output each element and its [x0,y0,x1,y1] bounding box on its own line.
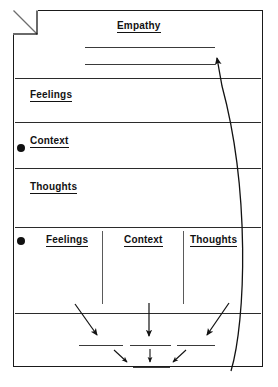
section-divider-4 [15,227,261,228]
section-label-thoughts-top: Thoughts [30,181,77,194]
section-divider-1 [15,78,261,79]
bullet-columns [17,237,25,245]
section-divider-2 [15,122,261,123]
section-divider-3 [15,168,261,169]
column-divider-2 [183,231,184,304]
page-title: Empathy [117,20,161,33]
section-label-feelings-top: Feelings [30,89,72,102]
column-divider-1 [102,231,103,304]
section-label-context: Context [30,135,69,148]
empathy-write-line-1[interactable] [85,47,215,48]
result-line-final[interactable] [133,367,170,368]
column-header-context: Context [124,234,163,247]
bullet-context [17,144,25,152]
column-header-thoughts: Thoughts [190,234,237,247]
result-line-2[interactable] [130,345,171,346]
result-line-1[interactable] [79,345,123,346]
empathy-write-line-2[interactable] [85,64,215,65]
worksheet-canvas: Empathy Feelings Context Thoughts Feelin… [0,0,278,387]
result-line-3[interactable] [177,345,215,346]
section-divider-5 [15,313,261,314]
folded-page-corner-icon [10,7,44,41]
column-header-feelings: Feelings [46,234,88,247]
